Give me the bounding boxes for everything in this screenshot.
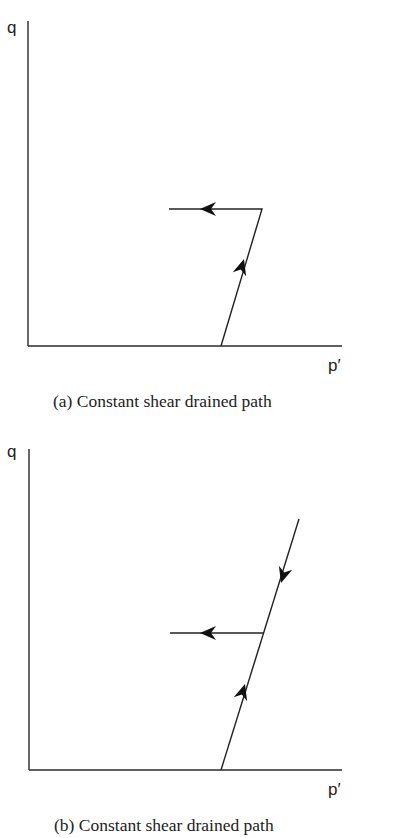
- p-axis-label: p′: [328, 780, 341, 799]
- caption-b: (b) Constant shear drained path: [54, 815, 274, 835]
- panel-a: q p′ (a) Constant shear drained path: [7, 18, 342, 411]
- stress-path: [169, 209, 262, 346]
- figure: q p′ (a) Constant shear drained path q p…: [0, 0, 396, 838]
- p-axis-label: p′: [328, 356, 341, 375]
- q-axis-label: q: [7, 442, 16, 461]
- panel-b: q p′ (b) Constant shear drained path: [7, 442, 342, 835]
- q-axis-label: q: [7, 18, 16, 37]
- loading-line: [221, 519, 299, 770]
- caption-a: (a) Constant shear drained path: [53, 391, 272, 411]
- arrow-up-icon: [233, 257, 251, 276]
